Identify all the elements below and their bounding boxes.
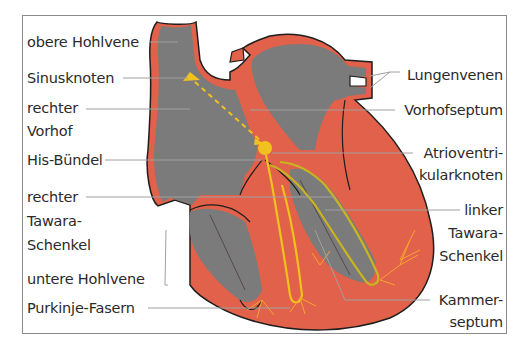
label-his-buendel: His-Bündel (27, 149, 103, 172)
label-untere-hohlvene: untere Hohlvene (27, 268, 145, 291)
label-vorhofseptum: Vorhofseptum (404, 99, 503, 122)
label-atrioventrikular-line1: Atrioventri- (424, 142, 503, 165)
label-rechter-vorhof-line2: Vorhof (27, 120, 72, 143)
label-linker-tawara-line2: Tawara- (448, 222, 503, 245)
label-rechter-vorhof-line1: rechter (27, 97, 78, 120)
label-rechter-tawara-line1: rechter (27, 186, 78, 209)
label-linker-tawara-line1: linker (464, 199, 503, 222)
label-obere-hohlvene: obere Hohlvene (27, 31, 139, 54)
label-linker-tawara-line3: Schenkel (439, 245, 503, 268)
label-rechter-tawara-line2: Tawara- (27, 210, 82, 233)
label-purkinje-fasern: Purkinje-Fasern (27, 297, 135, 320)
av-node-shape (258, 141, 272, 155)
label-kammerseptum-line2: septum (450, 311, 503, 334)
label-atrioventrikular-line2: kularknoten (419, 164, 503, 187)
label-rechter-tawara-line3: Schenkel (27, 234, 91, 257)
label-lungenvenen: Lungenvenen (407, 64, 503, 87)
label-kammerseptum-line1: Kammer- (439, 289, 503, 312)
label-sinusknoten: Sinusknoten (27, 67, 114, 90)
